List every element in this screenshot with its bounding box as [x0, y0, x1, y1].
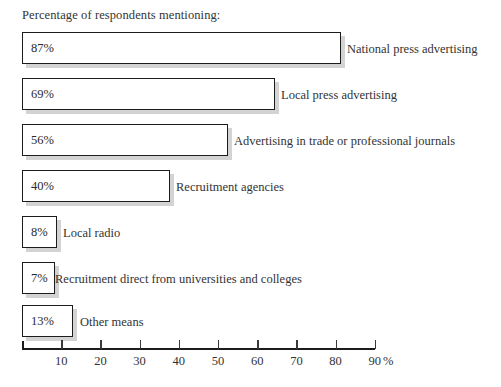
bar-category-label: Recruitment agencies — [176, 180, 284, 195]
axis-tick-label: 90 — [369, 354, 382, 369]
axis-tick — [375, 340, 376, 349]
axis-tick-label: 30 — [133, 354, 146, 369]
axis-tick-label: 10 — [55, 354, 68, 369]
bars-container: 87%National press advertising69%Local pr… — [0, 0, 501, 340]
axis-tick-label: 40 — [173, 354, 186, 369]
axis-start-cap — [22, 341, 24, 349]
bar-category-label: Advertising in trade or professional jou… — [234, 134, 455, 149]
axis-tick — [100, 340, 101, 349]
bar-value-label: 8% — [31, 225, 48, 240]
axis-tick-label: 80 — [329, 354, 342, 369]
bar-category-label: Local press advertising — [281, 88, 397, 103]
bar-rect: 87% — [22, 32, 341, 64]
bar-value-label: 56% — [31, 133, 54, 148]
axis-tick — [257, 340, 258, 349]
bar-category-label: National press advertising — [347, 42, 478, 57]
x-axis: 102030405060708090% — [0, 340, 501, 380]
axis-line — [22, 348, 375, 350]
bar-rect: 40% — [22, 170, 170, 202]
axis-tick-label: 70 — [290, 354, 303, 369]
axis-tick — [218, 340, 219, 349]
bar-rect: 7% — [22, 262, 55, 294]
bar-category-label: Other means — [80, 315, 144, 330]
axis-tick-label: 60 — [251, 354, 264, 369]
bar-value-label: 13% — [31, 314, 54, 329]
axis-tick-label: 20 — [94, 354, 107, 369]
axis-tick — [140, 340, 141, 349]
axis-tick — [61, 340, 62, 349]
bar-value-label: 40% — [31, 179, 54, 194]
bar-category-label: Recruitment direct from universities and… — [55, 272, 302, 287]
bar-category-label: Local radio — [63, 226, 120, 241]
bar-rect: 69% — [22, 78, 275, 110]
bar-value-label: 87% — [31, 41, 54, 56]
axis-tick — [179, 340, 180, 349]
axis-unit-label: % — [383, 354, 393, 369]
bar-value-label: 7% — [31, 271, 48, 286]
axis-tick-label: 50 — [212, 354, 225, 369]
bar-rect: 56% — [22, 124, 228, 156]
axis-tick — [296, 340, 297, 349]
axis-tick — [336, 340, 337, 349]
bar-rect: 8% — [22, 216, 57, 248]
bar-rect: 13% — [22, 305, 73, 337]
bar-value-label: 69% — [31, 87, 54, 102]
bar-chart: Percentage of respondents mentioning: 87… — [0, 0, 501, 387]
